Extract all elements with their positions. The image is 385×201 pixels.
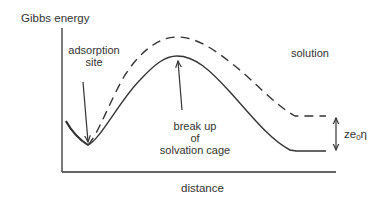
adsorption-well (66, 121, 88, 145)
energy-diagram (0, 0, 385, 201)
adsorption-label-line1: adsorption (64, 44, 124, 56)
adsorption-label-line2: site (64, 56, 124, 68)
breakup-label-line2: of (145, 132, 245, 144)
x-axis-label: distance (181, 182, 224, 194)
overpotential-prefix: ze (344, 128, 356, 140)
adsorption-site-label: adsorption site (64, 44, 124, 68)
solution-label: solution (291, 47, 329, 59)
adsorption-arrow-icon (83, 82, 88, 142)
breakup-arrow-icon (178, 61, 182, 110)
breakup-label-line1: break up (145, 120, 245, 132)
breakup-label-line3: solvation cage (145, 144, 245, 156)
breakup-label: break up of solvation cage (145, 120, 245, 156)
overpotential-label: ze0η (344, 128, 367, 144)
overpotential-eta: η (361, 128, 367, 140)
y-axis-label: Gibbs energy (21, 12, 89, 24)
